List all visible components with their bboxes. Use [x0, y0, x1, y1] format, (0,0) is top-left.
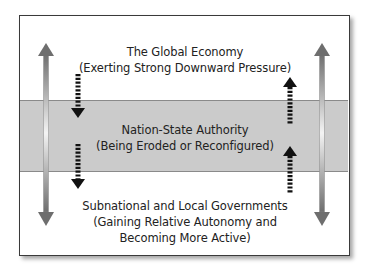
right-dashed-arrow-up-icon-2	[283, 146, 297, 193]
left-dashed-arrow-down-icon-2	[71, 144, 85, 189]
arrows-layer	[0, 0, 370, 268]
left-dashed-arrow-down-icon-1	[71, 74, 85, 118]
right-dashed-arrow-up-icon-1	[283, 77, 297, 124]
left-double-arrow-icon	[38, 43, 54, 226]
right-double-arrow-icon	[314, 43, 330, 226]
